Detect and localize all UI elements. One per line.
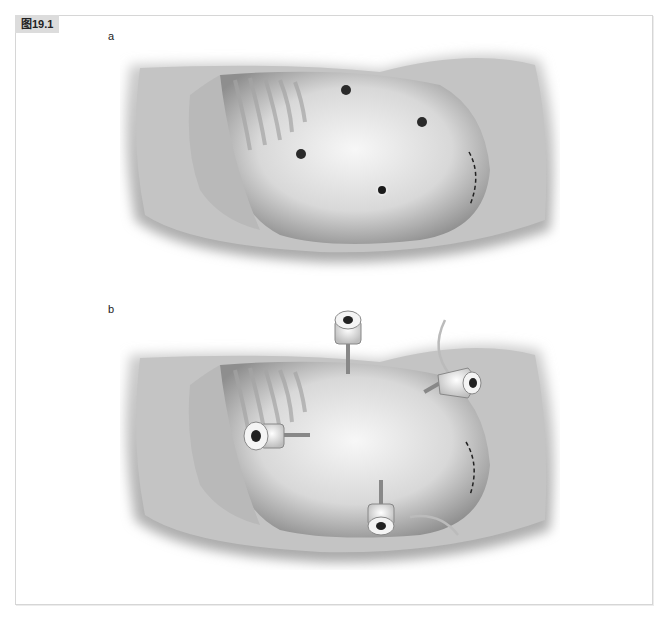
trocar-site-mark	[341, 85, 351, 95]
panel-a-letter: a	[108, 30, 114, 42]
figure-label: 图19.1	[15, 15, 59, 33]
umbilical-trocar-mark	[377, 185, 387, 195]
trocar-site-mark	[417, 117, 427, 127]
panel-b-letter: b	[108, 303, 114, 315]
trocar-site-mark	[296, 149, 306, 159]
panel-a-illustration	[120, 40, 560, 280]
panel-b-illustration	[120, 290, 560, 570]
